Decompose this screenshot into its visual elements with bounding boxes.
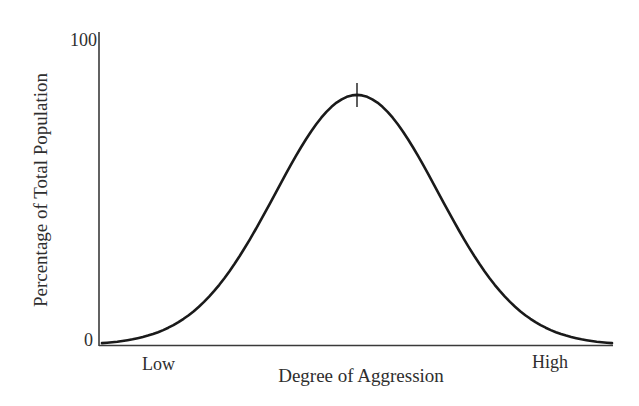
y-tick-0: 0 (84, 331, 93, 349)
bell-curve-line (102, 95, 612, 343)
chart-canvas (0, 0, 639, 406)
x-axis-title: Degree of Aggression (278, 366, 444, 385)
y-tick-100: 100 (70, 31, 97, 49)
y-axis-title: Percentage of Total Population (31, 73, 50, 307)
x-tick-low: Low (142, 355, 175, 373)
x-tick-high: High (532, 353, 568, 371)
